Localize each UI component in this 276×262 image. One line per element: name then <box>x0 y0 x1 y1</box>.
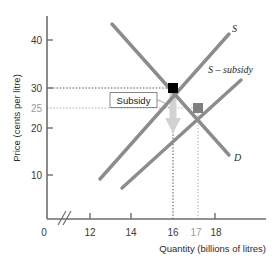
y-tick-label-30: 30 <box>31 83 43 94</box>
x-tick-label-18: 18 <box>210 227 222 238</box>
y-tick-label-40: 40 <box>31 35 43 46</box>
y-tick-label-10: 10 <box>31 170 43 181</box>
equilibrium-point-no-subsidy <box>168 83 178 93</box>
x-axis-title: Quantity (billions of litres) <box>159 243 266 254</box>
x-tick-label-17: 17 <box>190 227 202 238</box>
equilibrium-point-with-subsidy <box>193 103 203 113</box>
demand-curve-label: D <box>233 152 242 163</box>
supply-curve-label: S <box>232 23 237 34</box>
y-tick-labels: 40 30 25 20 10 <box>31 35 43 181</box>
supply-demand-subsidy-chart: 40 30 25 20 10 0 12 14 16 17 18 Price (c… <box>0 0 276 262</box>
supply-minus-subsidy-curve-label: S – subsidy <box>208 64 254 75</box>
y-tick-label-20: 20 <box>31 123 43 134</box>
y-axis-title: Price (cents per litre) <box>11 74 22 162</box>
subsidy-callout: Subsidy <box>110 93 169 109</box>
x-tick-label-0: 0 <box>41 227 47 238</box>
chart-canvas: 40 30 25 20 10 0 12 14 16 17 18 Price (c… <box>0 0 276 262</box>
x-tick-label-14: 14 <box>125 227 137 238</box>
y-tick-label-25: 25 <box>31 103 43 114</box>
axes <box>47 16 266 225</box>
subsidy-label-text: Subsidy <box>117 95 151 106</box>
x-axis-break-icon <box>58 211 71 225</box>
x-tick-labels: 0 12 14 16 17 18 <box>41 227 222 238</box>
x-tick-label-16: 16 <box>167 227 179 238</box>
x-tick-label-12: 12 <box>84 227 96 238</box>
